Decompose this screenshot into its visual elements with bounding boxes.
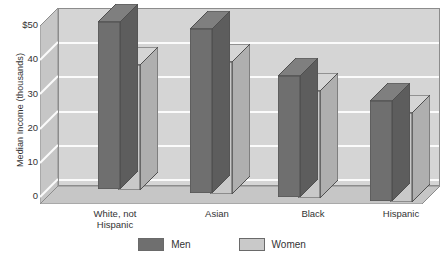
bar-shape <box>190 11 230 193</box>
x-axis-category-labels: White, not Hispanic Asian Black Hispanic <box>40 206 440 232</box>
bar-shape <box>98 4 138 189</box>
plot-area <box>40 8 440 204</box>
legend-label-women: Women <box>272 239 306 250</box>
legend-swatch-men <box>138 238 164 251</box>
category-label-line: Hispanic <box>346 208 444 219</box>
bar-shape <box>278 58 318 197</box>
legend-entry-men: Men <box>138 238 190 251</box>
bar-chart: Median Income (thousands) $50 40 30 20 1… <box>0 0 444 262</box>
legend-entry-women: Women <box>239 238 306 251</box>
category-label-line: Asian <box>162 208 272 219</box>
legend: Men Women <box>0 234 444 254</box>
legend-label-men: Men <box>171 239 190 250</box>
y-tick-label: 10 <box>4 157 38 167</box>
category-label-line: White, not <box>60 208 170 219</box>
y-tick-label: 30 <box>4 89 38 99</box>
bar-men-black <box>278 58 318 197</box>
y-tick-label: 0 <box>4 191 38 201</box>
y-axis-tick-labels: $50 40 30 20 10 0 <box>2 0 38 262</box>
bar-men-asian <box>190 11 230 193</box>
bars-container <box>40 8 440 204</box>
legend-swatch-women <box>239 238 265 251</box>
y-tick-label: 40 <box>4 54 38 64</box>
category-label-line: Hispanic <box>60 219 170 230</box>
bar-men-hispanic <box>370 83 410 201</box>
bar-shape <box>370 83 410 201</box>
y-tick-label: $50 <box>4 20 38 30</box>
bar-men-white-not-hispanic <box>98 4 138 189</box>
category-label-asian: Asian <box>162 208 272 219</box>
y-tick-label: 20 <box>4 123 38 133</box>
category-label-white-not-hispanic: White, not Hispanic <box>60 208 170 230</box>
category-label-hispanic: Hispanic <box>346 208 444 219</box>
